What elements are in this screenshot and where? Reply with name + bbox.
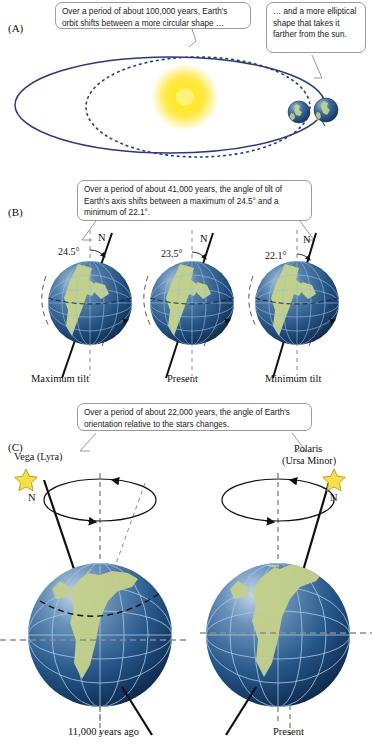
tilt-angle-label-maximum: 24.5° [58,246,80,257]
callout-leader-a-left [189,26,196,47]
precession-scene-past-group [0,469,190,735]
eccentricity-callout-right: … and a more elliptical shape that takes… [266,2,366,53]
caption-past: 11,000 years ago [68,726,139,737]
caption-minimum-tilt: Minimum tilt [265,373,321,384]
north-label-globe-2: N [200,233,208,244]
earth-near-sun [288,101,310,123]
callout-leader-b-left [82,221,96,240]
eccentricity-callout-left: Over a period of about 100,000 years, Ea… [55,2,251,29]
north-label-past: N [28,492,36,503]
globe-maximum-tilt-group [42,230,132,378]
globe-minimum-tilt-group [249,230,339,378]
star-label-polaris-line2: (Ursa Minor) [282,455,336,467]
axis-line-present [300,479,330,581]
globe-present-tilt-group [144,230,234,378]
north-label-globe-1: N [98,232,106,243]
axis-line-past [44,480,78,581]
vega-star-icon [15,469,38,491]
north-label-globe-3: N [303,234,311,245]
callout-leader-a-right [312,55,322,78]
star-label-vega: Vega (Lyra) [14,451,62,463]
tilt-angle-label-minimum: 22.1° [265,250,287,261]
star-label-polaris-line1: Polaris [294,443,322,455]
earth-far-from-sun [314,98,338,126]
sun-glyph [151,63,219,131]
polaris-star-icon [323,469,346,491]
precession-scene-present-group [200,469,372,735]
figure-milankovitch-cycles: (A) [0,0,372,748]
callout-leader-c-left [80,433,96,451]
panel-b-artwork [0,178,372,378]
caption-present: Present [273,726,304,737]
tilt-angle-label-present: 23.5° [161,248,183,259]
caption-maximum-tilt: Maximum tilt [31,373,89,384]
caption-present-tilt: Present [167,373,198,384]
north-label-present: N [330,492,338,503]
